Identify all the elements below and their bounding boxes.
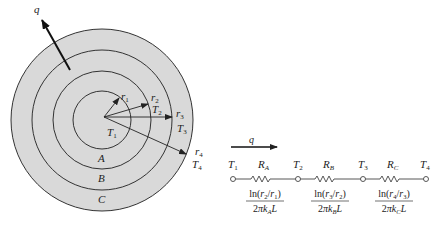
resistance-formula-a: ln(r2/r1) 2πkAL — [246, 188, 284, 215]
heat-flow-label: q — [34, 3, 40, 15]
formula-b-denominator: 2πkBL — [318, 203, 342, 215]
formula-a-numerator: ln(r2/r1) — [249, 188, 281, 200]
node-t3-label: T3 — [358, 158, 368, 172]
r4-label: r4 — [195, 145, 203, 159]
node-t3 — [361, 177, 366, 182]
node-t2-label: T2 — [293, 158, 303, 172]
t4-label: T4 — [192, 158, 202, 172]
circuit-wire — [235, 176, 424, 182]
formula-b-numerator: ln(r3/r2) — [314, 188, 346, 200]
resistor-b-label: RB — [322, 158, 335, 172]
resistance-formula-c: ln(r4/r3) 2πkCL — [375, 188, 413, 215]
formula-c-numerator: ln(r4/r3) — [378, 188, 410, 200]
resistor-c-label: RC — [386, 158, 399, 172]
node-t2 — [296, 177, 301, 182]
node-t1 — [231, 177, 236, 182]
thermal-resistance-circuit: q T1 T2 T3 T4 RA RB RC ln(r2/r1) 2πkAL l… — [228, 134, 430, 215]
formula-a-denominator: 2πkAL — [253, 203, 277, 215]
node-t1-label: T1 — [228, 158, 238, 172]
circuit-heat-flow-label: q — [249, 134, 254, 145]
layer-a-label: A — [97, 152, 105, 164]
resistance-formula-b: ln(r3/r2) 2πkBL — [311, 188, 349, 215]
composite-cylinder-diagram: q r1 r2 r3 r4 T1 T2 T3 T4 A B C q T1 T2 … — [0, 0, 441, 226]
node-t4-label: T4 — [420, 158, 430, 172]
node-t4 — [424, 177, 429, 182]
resistor-a-label: RA — [257, 158, 270, 172]
layer-c-label: C — [98, 193, 106, 205]
cylinder-cross-section: q r1 r2 r3 r4 T1 T2 T3 T4 A B C — [11, 3, 203, 211]
layer-b-label: B — [98, 172, 105, 184]
formula-c-denominator: 2πkCL — [382, 203, 407, 215]
